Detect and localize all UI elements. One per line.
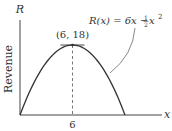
formula-leader-line bbox=[110, 28, 135, 73]
x-axis-label: x bbox=[164, 108, 171, 121]
formula-exponent: 2 bbox=[158, 13, 162, 21]
x-tick-label: 6 bbox=[69, 119, 75, 130]
function-formula: R(x) = 6x − bbox=[88, 15, 148, 26]
y-axis-label: R bbox=[15, 3, 24, 16]
peak-label: (6, 18) bbox=[56, 29, 89, 40]
formula-lhs: R(x) = 6x − bbox=[88, 15, 148, 26]
peak-point bbox=[71, 44, 74, 47]
formula-x-term: x bbox=[149, 15, 155, 26]
revenue-label: Revenue bbox=[2, 45, 15, 93]
formula-fraction-numerator: 1 bbox=[144, 14, 148, 21]
formula-fraction-denominator: 2 bbox=[144, 21, 148, 28]
revenue-chart: R x Revenue (6, 18) 6 R(x) = 6x − 1 2 x … bbox=[0, 0, 172, 131]
